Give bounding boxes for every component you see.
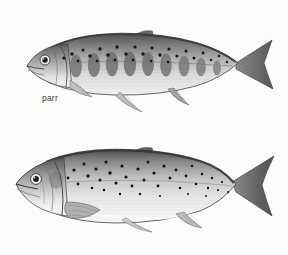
smolt-illustration xyxy=(0,128,288,255)
specimen-panel-smolt: smolt xyxy=(0,128,288,255)
smolt-caudal-fin xyxy=(232,156,274,216)
stage-label-parr: parr xyxy=(42,94,58,103)
parr-head xyxy=(27,44,72,88)
parr-illustration xyxy=(0,0,288,128)
parr-anal-fin xyxy=(168,88,189,105)
specimen-panel-parr: parr xyxy=(0,0,288,128)
parr-caudal-fin xyxy=(236,40,273,89)
salmon-life-stages-figure: parr xyxy=(0,0,288,255)
smolt-head xyxy=(16,158,68,216)
